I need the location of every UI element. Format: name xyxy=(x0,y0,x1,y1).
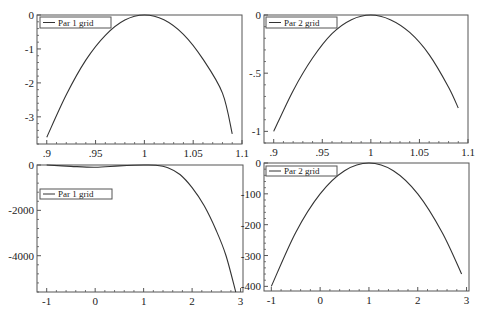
x-tick-label: 1 xyxy=(366,294,372,306)
legend: Par 1 grid xyxy=(40,17,111,28)
axes-frame xyxy=(264,15,468,143)
x-tick-label: .95 xyxy=(315,146,329,158)
x-tick-label: 1 xyxy=(368,146,374,158)
legend-label: Par 1 grid xyxy=(58,18,94,28)
legend-label: Par 2 grid xyxy=(284,166,320,176)
series-line xyxy=(47,165,236,292)
x-tick-label: .9 xyxy=(43,147,52,159)
subplot-2: .9.9511.051.10-.5-1Par 2 grid xyxy=(249,9,475,158)
x-tick-label: -1 xyxy=(42,295,51,307)
x-tick-label: 1.05 xyxy=(410,146,430,158)
y-tick-label: -.5 xyxy=(249,67,261,79)
y-tick-label: -2000 xyxy=(8,204,34,216)
legend-label: Par 1 grid xyxy=(58,189,94,199)
axes-frame xyxy=(37,15,242,144)
x-tick-label: 3 xyxy=(238,295,244,307)
x-tick-label: .95 xyxy=(89,147,103,159)
y-tick-label: -100 xyxy=(241,188,262,200)
x-tick-label: 1 xyxy=(141,295,147,307)
y-tick-label: 0 xyxy=(256,157,262,169)
x-tick-label: 3 xyxy=(464,294,470,306)
y-tick-label: -4000 xyxy=(8,250,34,262)
chart-canvas: .9.9511.051.10-1-2-3Par 1 grid.9.9511.05… xyxy=(0,0,480,314)
x-tick-label: 1.1 xyxy=(461,146,475,158)
legend: Par 1 grid xyxy=(40,189,112,200)
axes-frame xyxy=(264,163,469,291)
y-tick-label: -1 xyxy=(25,43,34,55)
y-tick-label: -300 xyxy=(241,250,262,262)
subplot-4: -101230-100-200-300-400Par 2 grid xyxy=(241,157,470,306)
y-tick-label: -1 xyxy=(252,125,261,137)
y-tick-label: 0 xyxy=(256,9,262,21)
series-line xyxy=(271,163,461,286)
y-tick-label: 0 xyxy=(29,9,35,21)
y-tick-label: 0 xyxy=(29,159,35,171)
legend-label: Par 2 grid xyxy=(284,18,320,28)
y-tick-label: -3 xyxy=(25,111,35,123)
y-tick-label: -200 xyxy=(241,219,262,231)
y-tick-label: -2 xyxy=(25,77,34,89)
x-tick-label: 1.05 xyxy=(184,147,204,159)
x-tick-label: 2 xyxy=(189,295,195,307)
x-tick-label: 1.1 xyxy=(235,147,249,159)
legend: Par 2 grid xyxy=(266,166,337,177)
legend: Par 2 grid xyxy=(266,17,337,28)
x-tick-label: 0 xyxy=(317,294,323,306)
x-tick-label: 1 xyxy=(142,147,148,159)
series-line xyxy=(274,15,459,131)
subplot-1: .9.9511.051.10-1-2-3Par 1 grid xyxy=(25,9,249,159)
x-tick-label: 0 xyxy=(92,295,98,307)
x-tick-label: .9 xyxy=(270,146,279,158)
series-line xyxy=(47,15,232,137)
y-tick-label: -400 xyxy=(241,280,262,292)
x-tick-label: -1 xyxy=(267,294,276,306)
subplot-3: -101230-2000-4000Par 1 grid xyxy=(8,159,243,307)
x-tick-label: 2 xyxy=(415,294,421,306)
axes-frame xyxy=(37,165,243,292)
